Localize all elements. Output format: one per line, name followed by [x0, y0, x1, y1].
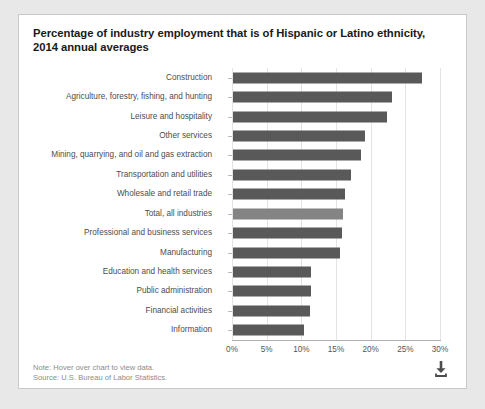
gridline [267, 68, 268, 340]
value-axis-area: 0%5%10%15%20%25%30% [232, 68, 454, 353]
bar[interactable] [233, 305, 310, 316]
plot-area: ConstructionAgriculture, forestry, fishi… [33, 68, 454, 353]
category-label: Information [30, 325, 212, 335]
category-label: Professional and business services [30, 228, 212, 238]
category-axis-labels: ConstructionAgriculture, forestry, fishi… [33, 68, 218, 340]
plot-box [232, 68, 440, 340]
gridline [232, 68, 233, 340]
category-tick [228, 97, 232, 98]
category-label: Education and health services [30, 267, 212, 277]
bar[interactable] [233, 247, 340, 258]
bar[interactable] [233, 150, 361, 161]
category-tick [228, 291, 232, 292]
bar[interactable] [233, 131, 365, 142]
category-label: Total, all industries [30, 209, 212, 219]
category-tick [228, 233, 232, 234]
category-label: Leisure and hospitality [30, 112, 212, 122]
category-tick [228, 117, 232, 118]
category-tick [228, 175, 232, 176]
bar[interactable] [233, 111, 387, 122]
category-label: Manufacturing [30, 248, 212, 258]
category-tick [228, 214, 232, 215]
category-label: Other services [30, 131, 212, 141]
category-tick [228, 155, 232, 156]
source-text: Source: U.S. Bureau of Labor Statistics. [33, 373, 167, 383]
gridline [371, 68, 372, 340]
bar[interactable] [233, 169, 351, 180]
category-label: Wholesale and retail trade [30, 189, 212, 199]
category-tick [228, 253, 232, 254]
bar[interactable] [233, 267, 311, 278]
category-tick [228, 330, 232, 331]
x-axis-tick-label: 30% [432, 345, 448, 354]
x-axis-tick-label: 20% [362, 345, 378, 354]
category-tick [228, 311, 232, 312]
note-text: Note: Hover over chart to view data. [33, 363, 167, 373]
download-icon[interactable] [431, 359, 451, 379]
x-axis-tick-label: 5% [261, 345, 273, 354]
gridline [405, 68, 406, 340]
x-axis-tick-label: 10% [293, 345, 309, 354]
x-axis-line [232, 340, 441, 341]
gridline [301, 68, 302, 340]
category-label: Transportation and utilities [30, 170, 212, 180]
bar[interactable] [233, 228, 342, 239]
category-label: Financial activities [30, 306, 212, 316]
x-axis-tick-label: 25% [397, 345, 413, 354]
gridline [440, 68, 441, 340]
bar[interactable] [233, 286, 311, 297]
chart-card: Percentage of industry employment that i… [18, 14, 467, 389]
bar[interactable] [233, 208, 343, 219]
gridline [336, 68, 337, 340]
category-tick [228, 194, 232, 195]
category-label: Agriculture, forestry, fishing, and hunt… [30, 92, 212, 102]
bar[interactable] [233, 189, 345, 200]
category-tick [228, 136, 232, 137]
category-tick [228, 272, 232, 273]
x-axis-tick-label: 15% [328, 345, 344, 354]
bar[interactable] [233, 325, 304, 336]
bar[interactable] [233, 92, 392, 103]
footer-notes: Note: Hover over chart to view data. Sou… [33, 363, 167, 383]
x-axis-tick-label: 0% [226, 345, 238, 354]
category-label: Mining, quarrying, and oil and gas extra… [30, 151, 212, 161]
chart-title: Percentage of industry employment that i… [33, 26, 453, 54]
category-label: Public administration [30, 287, 212, 297]
bar[interactable] [233, 72, 422, 83]
category-label: Construction [30, 73, 212, 83]
category-tick [228, 78, 232, 79]
